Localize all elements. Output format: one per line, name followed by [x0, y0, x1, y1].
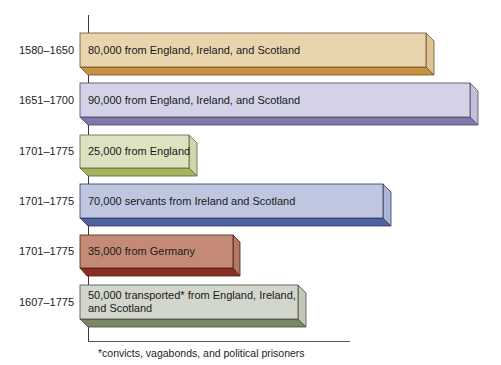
period-label: 1651–1700 — [0, 94, 74, 106]
bar-1651-1700: 90,000 from England, Ireland, and Scotla… — [80, 83, 478, 125]
bar-label: 25,000 from England — [88, 145, 190, 158]
period-label: 1701–1775 — [0, 195, 74, 207]
bar-label: 90,000 from England, Ireland, and Scotla… — [88, 94, 300, 107]
footnote: *convicts, vagabonds, and political pris… — [98, 347, 305, 359]
bar-1701-1775-germany: 35,000 from Germany — [80, 235, 240, 276]
bar-1701-1775-england: 25,000 from England — [80, 135, 197, 176]
bar-label-line1: 50,000 transported* from England, Irelan… — [88, 289, 296, 302]
period-label: 1607–1775 — [0, 296, 74, 308]
baseline — [88, 341, 350, 342]
period-label: 1701–1775 — [0, 145, 74, 157]
bar-label: 80,000 from England, Ireland, and Scotla… — [88, 44, 300, 57]
bar-label-line2: and Scotland — [88, 302, 152, 315]
bar-label: 35,000 from Germany — [88, 245, 195, 258]
period-label: 1701–1775 — [0, 245, 74, 257]
bar-1701-1775-servants: 70,000 servants from Ireland and Scotlan… — [80, 184, 391, 226]
bar-label: 70,000 servants from Ireland and Scotlan… — [88, 195, 295, 208]
bar-1580-1650: 80,000 from England, Ireland, and Scotla… — [80, 33, 434, 75]
bar-1607-1775-transported: 50,000 transported* from England, Irelan… — [80, 285, 306, 327]
period-label: 1580–1650 — [0, 44, 74, 56]
